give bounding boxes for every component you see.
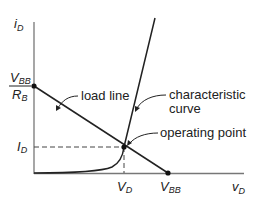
operating-point-leader: [130, 133, 158, 143]
load-line-annotation: load line: [81, 88, 129, 103]
y-axis-label: iD: [14, 16, 24, 33]
operating-point-arrowhead: [127, 140, 132, 146]
vbb-label: VBB: [160, 179, 181, 195]
diode-load-line-diagram: iD vD VBB RB ID VD VBB load line charact…: [0, 0, 255, 207]
load-line-arrowhead: [56, 105, 61, 111]
operating-point-annotation: operating point: [160, 125, 246, 140]
x-axis-label: vD: [232, 179, 246, 196]
intercept-point-y: [31, 83, 36, 88]
characteristic-annotation-line2: curve: [169, 101, 201, 116]
characteristic-leader: [137, 95, 166, 108]
id-label: ID: [17, 139, 28, 155]
characteristic-annotation-line1: characteristic: [169, 87, 246, 102]
operating-point-dot: [121, 144, 126, 149]
rb-denominator: RB: [12, 87, 27, 103]
intercept-point-x: [165, 170, 170, 175]
load-line-leader: [58, 96, 78, 108]
vbb-numerator: VBB: [10, 70, 31, 86]
vd-label: VD: [117, 179, 133, 195]
